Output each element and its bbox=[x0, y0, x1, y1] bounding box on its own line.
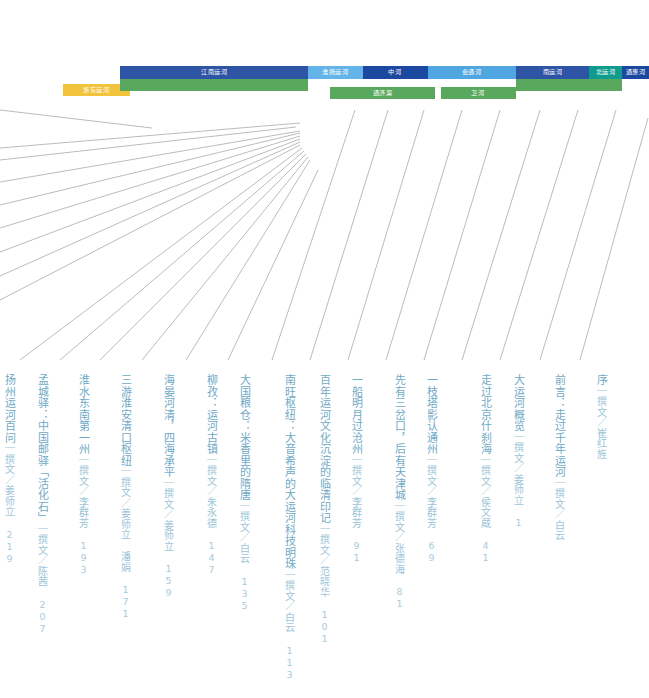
toc-entry-byline: ｜撰文／张德海 bbox=[394, 501, 405, 575]
toc-entry-page: 113 bbox=[284, 633, 295, 681]
toc-entry-title: 走过北京什刹海 bbox=[479, 374, 492, 455]
toc-linqing[interactable]: 百年运河文化沉淀的临清印记｜撰文／范晓华 101 bbox=[317, 374, 330, 645]
toc-entry-title: 海晏河清，四海承平 bbox=[162, 374, 175, 478]
toc-entry-byline: ｜撰文／朱永德 bbox=[206, 455, 217, 529]
toc-entry-byline: ｜撰文／姜师立 bbox=[4, 443, 15, 517]
toc-entry-page: 147 bbox=[206, 528, 217, 576]
toc-entry-page: 135 bbox=[239, 564, 250, 612]
toc-entry-page: 81 bbox=[394, 574, 405, 610]
toc-entry-title: 淮水东南第一州 bbox=[77, 374, 90, 455]
toc-cangzhou[interactable]: 一船明月过沧州｜撰文／李群芳 91 bbox=[349, 374, 362, 564]
toc-entry-byline: ｜撰文／白云 bbox=[284, 570, 295, 633]
toc-entry-page: 171 bbox=[120, 572, 131, 620]
toc-entry-byline: ｜撰文／李群芳 bbox=[78, 455, 89, 529]
toc-entry-byline: ｜撰文／姜师立 bbox=[163, 478, 174, 552]
toc-entry-title: 南旺枢纽：大音希声的大运河科技明珠 bbox=[283, 374, 296, 570]
toc-entry-byline: ｜撰文／侯文蔵 bbox=[480, 455, 491, 529]
toc-entry-page: 159 bbox=[163, 551, 174, 599]
infographic-canvas: 江南运河淮扬运河中河会通河南运河北运河通惠河浙东运河通济渠卫河 序｜撰文／崔红旌… bbox=[0, 0, 649, 698]
toc-entry-page: 207 bbox=[37, 587, 48, 635]
toc-entry-byline: ｜撰文／白云 bbox=[554, 478, 565, 541]
toc-tianjin[interactable]: 先有三岔口，后有天津城｜撰文／张德海 81 bbox=[392, 374, 405, 610]
toc-entry-title: 三游淮安清口枢纽 bbox=[119, 374, 132, 466]
toc-tongzhou[interactable]: 一枝塔影认通州｜撰文／李群芳 69 bbox=[424, 374, 437, 564]
toc-entry-page: 193 bbox=[78, 528, 89, 576]
toc-entry-page: 91 bbox=[351, 528, 362, 564]
toc-entry-title: 孟城驿：中国邮驿「活化石」 bbox=[36, 374, 49, 524]
toc-entry-title: 前言：走过千年运河 bbox=[553, 374, 566, 478]
toc-cut-left[interactable]: 扬州运河百问｜撰文／姜师立 219 bbox=[2, 374, 15, 565]
toc-entry-byline: ｜撰文／范晓华 bbox=[319, 524, 330, 598]
toc-huaian[interactable]: 三游淮安清口枢纽｜撰文／姜师立 潘娟 171 bbox=[118, 374, 131, 620]
toc-entry-page: 69 bbox=[426, 528, 437, 564]
toc-entry-title: 扬州运河百问 bbox=[3, 374, 16, 443]
toc-entry-page: 41 bbox=[480, 528, 491, 564]
toc-xu[interactable]: 序｜撰文／崔红旌 bbox=[594, 374, 607, 459]
toc-qianyan[interactable]: 前言：走过千年运河｜撰文／白云 bbox=[552, 374, 565, 541]
toc-entry-page: 101 bbox=[319, 597, 330, 645]
toc-entry-title: 序 bbox=[595, 374, 608, 386]
toc-entry-title: 柳孜：运河古镇 bbox=[205, 374, 218, 455]
toc-entry-title: 先有三岔口，后有天津城 bbox=[393, 374, 406, 501]
table-of-contents: 序｜撰文／崔红旌前言：走过千年运河｜撰文／白云大运河概览｜撰文／姜师立 1走过北… bbox=[0, 0, 649, 698]
toc-entry-byline: ｜撰文／李群芳 bbox=[351, 455, 362, 529]
toc-entry-byline: ｜撰文／李群芳 bbox=[426, 455, 437, 529]
toc-mengchengyi[interactable]: 孟城驿：中国邮驿「活化石」｜撰文／陈茜 207 bbox=[35, 374, 48, 635]
toc-shichahai[interactable]: 走过北京什刹海｜撰文／侯文蔵 41 bbox=[478, 374, 491, 564]
toc-entry-title: 大国粮仓：米香里的隋唐 bbox=[238, 374, 251, 501]
toc-nanwang[interactable]: 南旺枢纽：大音希声的大运河科技明珠｜撰文／白云 113 bbox=[282, 374, 295, 681]
toc-entry-byline: ｜撰文／崔红旌 bbox=[596, 386, 607, 460]
toc-liuzi[interactable]: 柳孜：运河古镇｜撰文／朱永德 147 bbox=[204, 374, 217, 576]
toc-haiyanheqing[interactable]: 海晏河清，四海承平｜撰文／姜师立 159 bbox=[161, 374, 174, 599]
toc-entry-byline: ｜撰文／陈茜 bbox=[37, 524, 48, 587]
toc-entry-page: 1 bbox=[513, 505, 524, 529]
toc-entry-byline: ｜撰文／姜师立 bbox=[513, 432, 524, 506]
toc-entry-title: 百年运河文化沉淀的临清印记 bbox=[318, 374, 331, 524]
toc-entry-page: 219 bbox=[4, 517, 15, 565]
toc-entry-byline: ｜撰文／姜师立 潘娟 bbox=[120, 466, 131, 572]
toc-dalianggang[interactable]: 大国粮仓：米香里的隋唐｜撰文／白云 135 bbox=[237, 374, 250, 612]
toc-entry-title: 大运河概览 bbox=[512, 374, 525, 432]
toc-entry-byline: ｜撰文／白云 bbox=[239, 501, 250, 564]
toc-huaishui[interactable]: 淮水东南第一州｜撰文／李群芳 193 bbox=[76, 374, 89, 576]
toc-dayunhe-gailan[interactable]: 大运河概览｜撰文／姜师立 1 bbox=[511, 374, 524, 529]
toc-entry-title: 一船明月过沧州 bbox=[350, 374, 363, 455]
toc-entry-title: 一枝塔影认通州 bbox=[425, 374, 438, 455]
